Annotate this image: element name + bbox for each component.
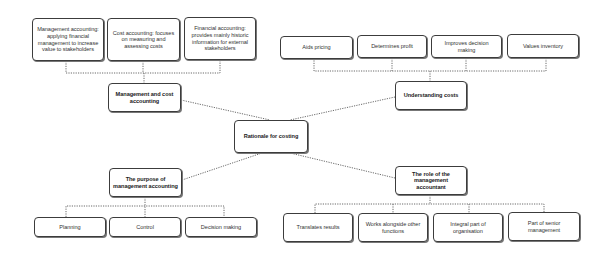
branch-understanding-costs: Understanding costs [395,81,467,110]
connector-center-top-right [290,97,395,120]
branch-management-and-cost-accounting: Management and cost accounting [108,83,181,112]
rationale-for-costing-diagram: Rationale for costing Management and cos… [0,0,607,255]
branch-role-of-management-accountant: The role of the management accountant [395,166,467,195]
connector-top-right-bus [314,58,546,71]
connector-center-bottom-right [290,153,395,178]
leaf-translates-results: Translates results [283,213,353,242]
leaf-control: Control [109,217,181,237]
leaf-management-accounting: Management accounting: applying financia… [32,18,104,61]
connector-center-top-left [181,100,270,120]
connector-center-bottom-left [182,153,262,180]
leaf-works-alongside-other-functions: Works alongside other functions [358,213,428,242]
center-node-label: Rationale for costing [244,133,299,140]
leaf-aids-pricing: Aids pricing [280,36,353,59]
leaf-values-inventory: Values inventory [507,34,579,58]
leaf-decision-making: Decision making [185,217,257,237]
leaf-cost-accounting: Cost accounting: focuses on measuring an… [107,18,180,61]
center-node: Rationale for costing [234,120,308,153]
leaf-integral-part-of-organisation: Integral part of organisation [433,213,503,242]
leaf-improves-decision-making: Improves decision making [431,35,502,58]
leaf-planning: Planning [34,217,106,237]
branch-purpose-of-management-accounting: The purpose of management accounting [109,168,182,197]
leaf-part-of-senior-management: Part of senior management [508,212,580,241]
leaf-financial-accounting: Financial accounting: provides mainly hi… [184,17,256,60]
leaf-determines-profit: Determines profit [357,35,427,58]
